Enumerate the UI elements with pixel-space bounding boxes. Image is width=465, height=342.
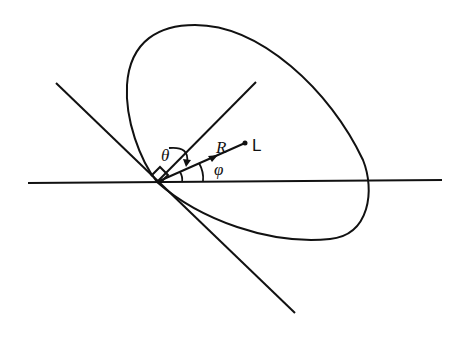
tangent-line	[56, 83, 295, 313]
label-theta: θ	[161, 147, 169, 164]
phi-arc	[199, 163, 203, 181]
point-l	[243, 141, 248, 146]
theta-arrowhead	[183, 159, 191, 167]
label-phi: φ	[214, 161, 223, 178]
vector-r	[157, 143, 245, 182]
diagram-canvas	[0, 0, 465, 342]
normal-line	[157, 82, 256, 182]
loop-curve	[127, 25, 369, 240]
horizontal-axis	[28, 180, 442, 183]
phi-arc-inner	[180, 172, 182, 182]
label-l: L	[252, 137, 261, 154]
label-r: R	[216, 139, 226, 156]
